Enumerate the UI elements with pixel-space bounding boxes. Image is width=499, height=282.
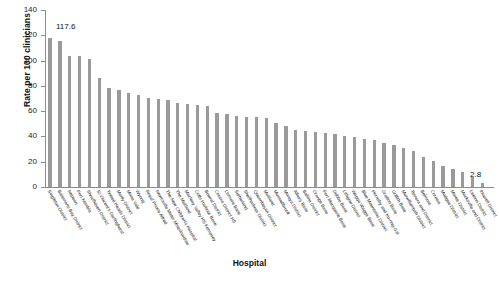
bar[interactable]: [196, 105, 199, 187]
y-axis-tick-label: 140: [3, 6, 37, 14]
bar[interactable]: [324, 133, 327, 187]
bar[interactable]: [206, 106, 209, 187]
bar[interactable]: [314, 132, 317, 187]
bar[interactable]: [432, 161, 435, 187]
bar[interactable]: [107, 88, 110, 187]
y-axis-tick: [41, 10, 45, 11]
bar[interactable]: [245, 117, 248, 187]
y-axis-tick-label: 40: [3, 132, 37, 140]
bar[interactable]: [373, 140, 376, 187]
bar[interactable]: [215, 113, 218, 187]
bar[interactable]: [353, 137, 356, 187]
y-axis-tick-label: 100: [3, 57, 37, 65]
y-axis-tick: [41, 162, 45, 163]
bar[interactable]: [481, 183, 484, 187]
bar[interactable]: [441, 166, 444, 187]
bar[interactable]: [422, 157, 425, 187]
bar[interactable]: [147, 98, 150, 188]
y-axis-tick: [41, 136, 45, 137]
bar[interactable]: [235, 116, 238, 187]
bar[interactable]: [137, 95, 140, 187]
bar[interactable]: [255, 117, 258, 187]
y-axis-tick-label: 60: [3, 107, 37, 115]
bar[interactable]: [402, 148, 405, 187]
bar[interactable]: [343, 136, 346, 187]
bar[interactable]: [274, 123, 277, 187]
bar[interactable]: [176, 103, 179, 187]
x-axis-line: [45, 187, 494, 188]
bar[interactable]: [58, 41, 61, 187]
bar[interactable]: [157, 99, 160, 187]
bar[interactable]: [68, 56, 71, 187]
bar[interactable]: [48, 38, 51, 187]
x-axis-category-labels: Singleton DistrictBatemans Bay DistrictN…: [46, 189, 494, 257]
bar[interactable]: [363, 139, 366, 187]
bar[interactable]: [225, 114, 228, 187]
bar[interactable]: [166, 100, 169, 187]
bar[interactable]: [265, 118, 268, 187]
max-value-label: 117.6: [56, 22, 75, 31]
y-axis-tick: [41, 61, 45, 62]
bar[interactable]: [412, 151, 415, 187]
bar[interactable]: [451, 169, 454, 187]
bar[interactable]: [127, 93, 130, 187]
y-axis-tick-label: 20: [3, 158, 37, 166]
y-axis-tick: [41, 187, 45, 188]
min-value-label: 2.8: [470, 170, 481, 179]
bar[interactable]: [392, 145, 395, 187]
bar[interactable]: [382, 143, 385, 188]
bar[interactable]: [117, 90, 120, 187]
bar[interactable]: [186, 104, 189, 187]
bar[interactable]: [294, 130, 297, 187]
bar-chart: Rate per 100 clinicians 0204060801001201…: [0, 0, 499, 282]
y-axis-tick-label: 0: [3, 183, 37, 191]
plot-area: [46, 10, 494, 187]
y-axis-tick: [41, 86, 45, 87]
bar[interactable]: [78, 56, 81, 187]
y-axis-tick: [41, 111, 45, 112]
bar[interactable]: [98, 78, 101, 187]
bar[interactable]: [284, 126, 287, 187]
y-axis-tick: [41, 35, 45, 36]
x-axis-title: Hospital: [0, 258, 499, 268]
bar[interactable]: [304, 131, 307, 187]
bar[interactable]: [88, 59, 91, 187]
bar[interactable]: [333, 134, 336, 187]
y-axis-tick-label: 120: [3, 31, 37, 39]
bar[interactable]: [461, 172, 464, 187]
y-axis-tick-label: 80: [3, 82, 37, 90]
